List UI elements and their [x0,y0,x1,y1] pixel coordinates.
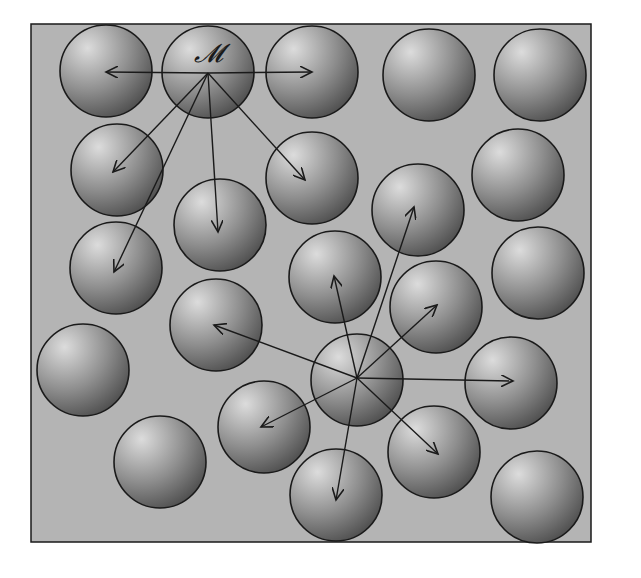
sphere [494,29,586,121]
sphere [372,164,464,256]
sphere [71,124,163,216]
sphere-interaction-diagram: 𝓜 [0,0,641,578]
sphere [37,324,129,416]
sphere [290,449,382,541]
sphere [289,231,381,323]
sphere [114,416,206,508]
sphere [491,451,583,543]
sphere [266,132,358,224]
sphere [472,129,564,221]
sphere [174,179,266,271]
sphere [390,261,482,353]
sphere [465,337,557,429]
sphere [492,227,584,319]
arrow-icon [106,72,208,73]
sphere [218,381,310,473]
spheres-layer [37,25,586,543]
sphere [383,29,475,121]
sphere [60,25,152,117]
arrow-icon [208,72,312,73]
